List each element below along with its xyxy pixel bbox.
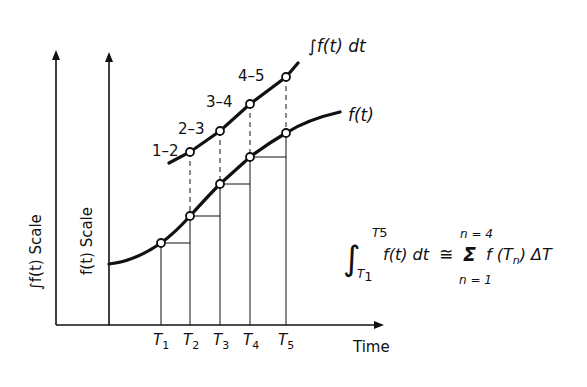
tick-label-t5: T5 [278, 331, 294, 352]
formula-upper-limit: T5 [372, 225, 388, 240]
f-curve [109, 112, 340, 264]
formula-lower-limit: T1 [357, 267, 373, 284]
rectangle-steps [161, 157, 286, 243]
tick-labels: T1 T2 T3 T4 T5 [153, 331, 294, 352]
dashed-projections [190, 77, 286, 216]
formula-sigma: Σ [463, 243, 476, 265]
f-scale-label: f(t) Scale [78, 207, 96, 275]
tick-label-t4: T4 [243, 331, 259, 352]
approximation-formula: ∫ T5 T1 f(t) dt ≅ n = 4 Σ n = 1 f (Tn) Δ… [343, 225, 553, 287]
interval-label-3-4: 3–4 [206, 93, 233, 111]
integral-scale-label: ∫f(t) Scale [27, 214, 45, 290]
formula-sum-upper: n = 4 [460, 227, 493, 241]
tick-label-t1: T1 [153, 331, 169, 352]
integral-curve-label: ∫f(t) dt [308, 36, 367, 56]
interval-label-4-5: 4–5 [238, 67, 265, 85]
formula-integrand: f(t) dt [383, 245, 430, 264]
formula-sum-lower: n = 1 [459, 273, 492, 287]
tick-label-t3: T3 [213, 331, 229, 352]
interval-label-1-2: 1–2 [152, 142, 179, 160]
formula-approx: ≅ [439, 244, 453, 264]
formula-summand: f (Tn) ΔT [486, 245, 553, 267]
f-curve-label: f(t) [348, 105, 374, 125]
tick-label-t2: T2 [183, 331, 199, 352]
integration-diagram: 1–2 2–3 3–4 4–5 ∫f(t) dt f(t) ∫f(t) Scal… [0, 0, 587, 387]
interval-label-2-3: 2–3 [178, 120, 205, 138]
time-axis-label: Time [352, 338, 390, 356]
